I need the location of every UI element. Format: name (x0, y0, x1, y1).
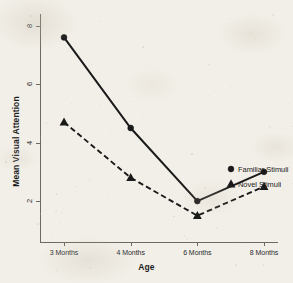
legend-item-novel-stimuli: Novel Stimuli (238, 180, 281, 189)
filled-circle-marker (128, 125, 134, 131)
filled-triangle-marker (61, 119, 68, 125)
legend-item-familiar-stimuli: Familiar Stimuli (238, 165, 288, 174)
series-line-familiar (64, 37, 264, 201)
filled-circle-marker (228, 166, 234, 172)
filled-circle-marker (61, 34, 67, 40)
filled-triangle-marker (228, 181, 235, 187)
plot-area (0, 0, 293, 283)
filled-circle-marker (194, 198, 200, 204)
line-chart: Mean Visual Attention Age 2468 3 Months4… (0, 0, 293, 283)
